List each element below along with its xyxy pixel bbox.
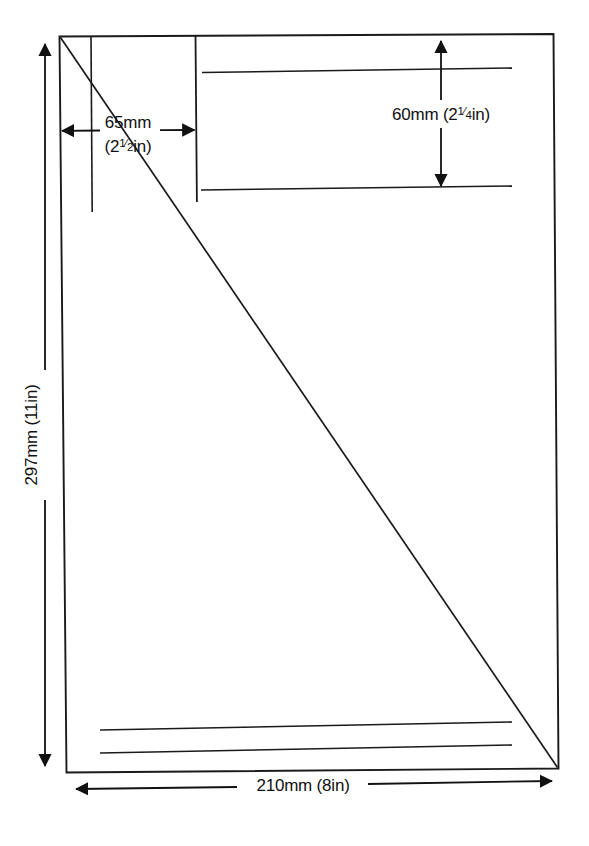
margin-label-prefix: (2 <box>104 137 119 156</box>
paper-size-diagram: 297mm (11in) 210mm (8in) 65mm (21⁄2in) 6… <box>0 0 589 846</box>
height-dimension-label: 297mm (11in) <box>22 384 41 485</box>
margin-dimension-label-line1: 65mm <box>105 113 151 132</box>
height-dimension: 297mm (11in) <box>22 44 45 766</box>
width-dimension-label: 210mm (8in) <box>256 776 349 795</box>
band-label-prefix: 60mm (2 <box>392 105 458 124</box>
width-dimension-arrow-right <box>368 781 552 784</box>
margin-label-suffix: in) <box>133 137 151 156</box>
width-dimension: 210mm (8in) <box>76 776 552 795</box>
band-label-suffix: in) <box>472 105 490 124</box>
width-dimension-arrow-left <box>76 787 237 789</box>
diagram-canvas: 297mm (11in) 210mm (8in) 65mm (21⁄2in) 6… <box>0 0 589 846</box>
band-dimension-label: 60mm (21⁄4in) <box>392 105 490 124</box>
